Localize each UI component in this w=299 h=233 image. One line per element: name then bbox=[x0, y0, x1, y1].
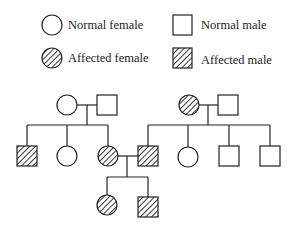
legend-label-normal-female: Normal female bbox=[68, 18, 143, 32]
legend-label-affected-female: Affected female bbox=[68, 51, 149, 65]
generation-3 bbox=[97, 195, 158, 217]
legend-affected-male-icon bbox=[173, 48, 192, 68]
individual-III-1-affected-female bbox=[97, 195, 117, 215]
legend-label-normal-male: Normal male bbox=[201, 18, 267, 32]
individual-II-4-affected-male bbox=[138, 146, 158, 166]
legend-normal-male-icon bbox=[173, 15, 192, 35]
individual-II-7-normal-male bbox=[260, 146, 280, 166]
individual-II-3-affected-female bbox=[98, 146, 118, 166]
individual-II-1-affected-male bbox=[17, 146, 37, 166]
individual-II-2-normal-female bbox=[57, 146, 77, 166]
generation-2 bbox=[17, 146, 280, 167]
individual-II-5-normal-female bbox=[178, 147, 198, 167]
legend-normal-female-icon bbox=[42, 15, 62, 35]
individual-III-2-affected-male bbox=[138, 197, 158, 217]
individual-II-6-normal-male bbox=[219, 146, 239, 166]
individual-I-2-normal-male bbox=[97, 95, 117, 115]
pedigree-diagram bbox=[0, 0, 299, 233]
individual-I-4-normal-male bbox=[218, 95, 238, 115]
individual-I-3-affected-female bbox=[179, 95, 199, 115]
legend-affected-female-icon bbox=[42, 48, 62, 68]
legend-label-affected-male: Affected male bbox=[201, 53, 272, 67]
individual-I-1-normal-female bbox=[57, 95, 77, 115]
